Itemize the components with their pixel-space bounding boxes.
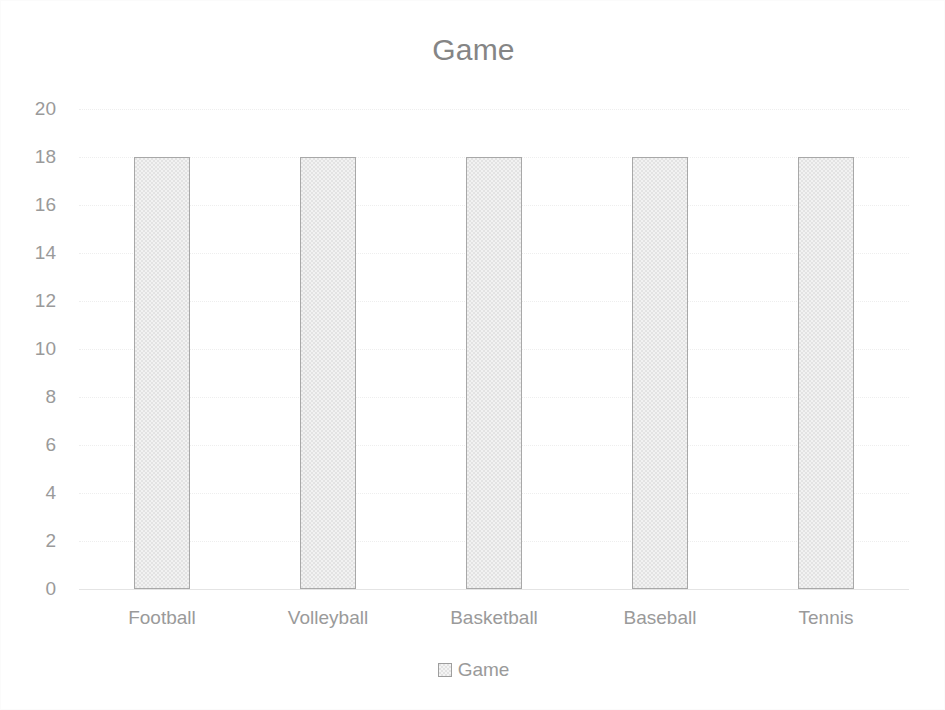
- bar[interactable]: [134, 157, 190, 589]
- bar[interactable]: [300, 157, 356, 589]
- bar-slot: [245, 109, 411, 589]
- bar[interactable]: [466, 157, 522, 589]
- y-tick-label: 12: [35, 290, 56, 312]
- x-tick-label: Baseball: [624, 605, 697, 631]
- x-tick-label: Football: [128, 605, 196, 631]
- legend-entry[interactable]: Game: [438, 659, 510, 681]
- y-tick-label: 4: [45, 482, 56, 504]
- legend-label: Game: [458, 659, 510, 681]
- y-tick-label: 14: [35, 242, 56, 264]
- bars-layer: [79, 109, 909, 589]
- y-tick-label: 6: [45, 434, 56, 456]
- y-tick-label: 10: [35, 338, 56, 360]
- x-axis: FootballVolleyballBasketballBaseballTenn…: [79, 605, 909, 635]
- y-tick-label: 8: [45, 386, 56, 408]
- chart-title: Game: [1, 31, 945, 69]
- bar-slot: [411, 109, 577, 589]
- x-tick-label: Volleyball: [288, 605, 368, 631]
- chart-legend: Game: [1, 659, 945, 681]
- bar[interactable]: [798, 157, 854, 589]
- y-tick-label: 0: [45, 578, 56, 600]
- y-tick-label: 18: [35, 146, 56, 168]
- y-tick-label: 20: [35, 98, 56, 120]
- bar-slot: [577, 109, 743, 589]
- x-tick-label: Tennis: [799, 605, 854, 631]
- y-tick-label: 2: [45, 530, 56, 552]
- axis-baseline: [79, 589, 909, 590]
- legend-swatch-game: [438, 663, 452, 677]
- x-tick-label: Basketball: [450, 605, 538, 631]
- bar-slot: [79, 109, 245, 589]
- bar[interactable]: [632, 157, 688, 589]
- plot-area: [79, 109, 909, 589]
- y-tick-label: 16: [35, 194, 56, 216]
- y-axis: 20181614121086420: [1, 1, 79, 710]
- bar-chart: Game 20181614121086420 FootballVolleybal…: [0, 0, 945, 710]
- bar-slot: [743, 109, 909, 589]
